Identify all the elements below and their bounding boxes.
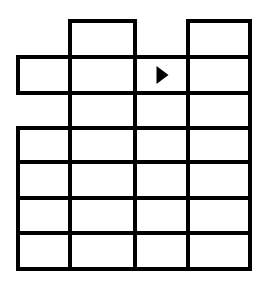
- grid-cell: [188, 21, 250, 57]
- grid-cell: [18, 198, 70, 233]
- grid-cell: [18, 233, 70, 269]
- grid-cell: [135, 233, 188, 269]
- grid-cell: [18, 57, 70, 93]
- grid-cell: [135, 128, 188, 162]
- grid-cell: [188, 198, 250, 233]
- grid-cell: [18, 162, 70, 198]
- grid-cell: [70, 21, 135, 57]
- grid-cell: [188, 57, 250, 93]
- grid-cell: [135, 162, 188, 198]
- grid-cell: [70, 198, 135, 233]
- grid-cell: [70, 233, 135, 269]
- grid-cell: [188, 93, 250, 128]
- grid-cell: [70, 93, 135, 128]
- grid-cell: [135, 198, 188, 233]
- grid-cell: [70, 57, 135, 93]
- grid-cell: [135, 93, 188, 128]
- grid-cell: [18, 128, 70, 162]
- grid-cell: [188, 162, 250, 198]
- grid-cell: [70, 128, 135, 162]
- grid-cells: [18, 21, 250, 269]
- grid-diagram: [0, 0, 267, 286]
- grid-cell: [70, 162, 135, 198]
- grid-cell: [188, 128, 250, 162]
- grid-cell: [188, 233, 250, 269]
